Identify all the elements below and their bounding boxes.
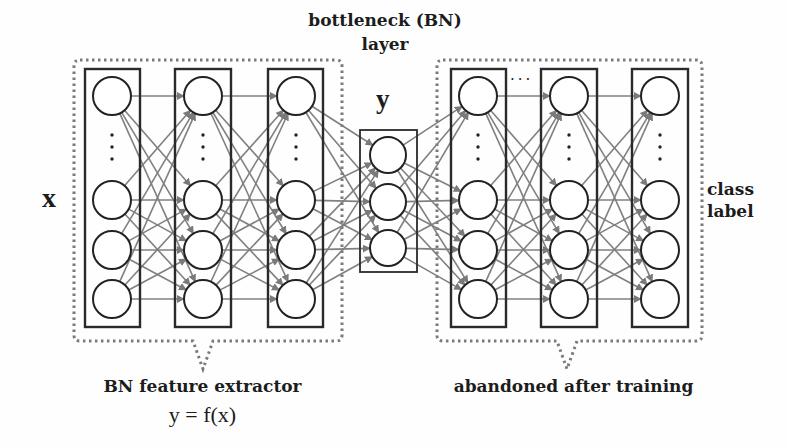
neuron-node bbox=[550, 280, 588, 318]
abandoned-after-training-caption: abandoned after training bbox=[446, 376, 701, 396]
neuron-node bbox=[184, 77, 222, 115]
neuron-node bbox=[93, 77, 131, 115]
neuron-node bbox=[550, 231, 588, 269]
neuron-node bbox=[550, 181, 588, 219]
neuron-node bbox=[93, 181, 131, 219]
neuron-node bbox=[370, 137, 406, 173]
vertical-ellipsis-dot bbox=[294, 133, 297, 136]
vertical-ellipsis-dot bbox=[110, 133, 113, 136]
neuron-node bbox=[184, 181, 222, 219]
connection-edge bbox=[313, 257, 373, 290]
class-label-title: class label bbox=[707, 178, 754, 222]
neuron-node bbox=[93, 280, 131, 318]
connection-edge bbox=[404, 163, 461, 191]
class-label-line2: label bbox=[707, 200, 754, 222]
vertical-ellipsis-dot bbox=[567, 145, 570, 148]
vertical-ellipsis-dot bbox=[110, 157, 113, 160]
neuron-node bbox=[641, 280, 679, 318]
connection-edge bbox=[306, 170, 378, 283]
vertical-ellipsis-dot bbox=[201, 145, 204, 148]
vertical-ellipsis-dot bbox=[476, 157, 479, 160]
neuron-node bbox=[93, 231, 131, 269]
vertical-ellipsis-dot bbox=[658, 133, 661, 136]
vertical-ellipsis-dot bbox=[294, 145, 297, 148]
connection-edge bbox=[404, 257, 462, 290]
bottleneck-network-diagram: bottleneck (BN) layer y x class label ..… bbox=[0, 0, 787, 448]
vertical-ellipsis-dot bbox=[476, 145, 479, 148]
input-label: x bbox=[42, 182, 56, 214]
neuron-node bbox=[277, 280, 315, 318]
connection-edge bbox=[404, 210, 461, 241]
neuron-node bbox=[459, 280, 497, 318]
neuron-node bbox=[641, 77, 679, 115]
neuron-node bbox=[370, 184, 406, 220]
bn-feature-extractor-formula: y = f(x) bbox=[100, 402, 305, 428]
neuron-node bbox=[277, 231, 315, 269]
vertical-ellipsis-dot bbox=[658, 157, 661, 160]
neuron-node bbox=[184, 280, 222, 318]
neuron-node bbox=[459, 181, 497, 219]
class-label-line1: class bbox=[707, 178, 754, 200]
neuron-node bbox=[641, 231, 679, 269]
neuron-node bbox=[459, 231, 497, 269]
neuron-node bbox=[370, 230, 406, 266]
neuron-node bbox=[277, 181, 315, 219]
vertical-ellipsis-dot bbox=[201, 157, 204, 160]
vertical-ellipsis-dot bbox=[476, 133, 479, 136]
vertical-ellipsis-dot bbox=[658, 145, 661, 148]
vertical-ellipsis-dot bbox=[294, 157, 297, 160]
neuron-node bbox=[184, 231, 222, 269]
vertical-ellipsis-dot bbox=[201, 133, 204, 136]
vertical-ellipsis-dot bbox=[110, 145, 113, 148]
bottleneck-output-label: y bbox=[376, 84, 390, 115]
neuron-node bbox=[550, 77, 588, 115]
neuron-node bbox=[641, 181, 679, 219]
bottleneck-title-line1: bottleneck (BN) bbox=[270, 10, 500, 30]
neuron-node bbox=[459, 77, 497, 115]
bottleneck-title-line2: layer bbox=[270, 34, 500, 54]
vertical-ellipsis-dot bbox=[567, 157, 570, 160]
bottleneck-layer-title: bottleneck (BN) layer bbox=[270, 10, 500, 54]
neuron-node bbox=[277, 77, 315, 115]
ellipsis-between-hidden-layers: ... bbox=[510, 66, 533, 84]
bn-feature-extractor-caption: BN feature extractor bbox=[100, 376, 305, 396]
vertical-ellipsis-dot bbox=[567, 133, 570, 136]
